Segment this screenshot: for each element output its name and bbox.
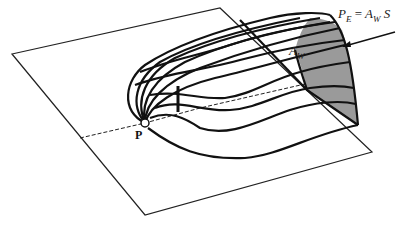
point-p-marker xyxy=(141,119,149,127)
incident-arrow-shaft xyxy=(345,32,395,46)
formula-equals: = xyxy=(355,6,362,21)
dashed-axis-line xyxy=(80,84,305,138)
formula-s: S xyxy=(384,6,391,21)
area-aw-sub: W xyxy=(297,51,305,61)
area-aw-base: A xyxy=(289,43,297,58)
formula-pe-sub: E xyxy=(346,14,352,24)
formula-pe-equals-aw-s: PE = AW S xyxy=(338,6,390,24)
formula-aw-base: A xyxy=(365,6,373,21)
formula-pe-base: P xyxy=(338,6,346,21)
point-p-label: P xyxy=(135,128,142,143)
formula-aw-sub: W xyxy=(373,14,381,24)
beam-pattern-diagram xyxy=(0,0,405,225)
area-aw-label: AW xyxy=(289,43,304,61)
